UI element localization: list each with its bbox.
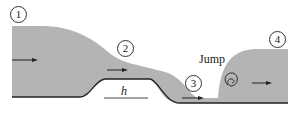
bump-height-label: h <box>121 84 127 99</box>
channel-flow-diagram: 1 2 3 4 Jump h <box>0 0 288 119</box>
flow-illustration <box>0 0 288 119</box>
station-4-marker: 4 <box>269 31 286 48</box>
station-2-marker: 2 <box>117 40 134 57</box>
station-1-marker: 1 <box>10 6 27 23</box>
water-body <box>12 26 288 103</box>
jump-label: Jump <box>199 52 225 67</box>
station-3-marker: 3 <box>185 75 202 92</box>
